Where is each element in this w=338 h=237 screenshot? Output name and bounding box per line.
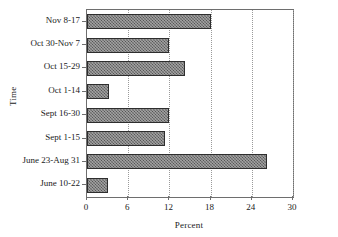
y-tick-mark [82,44,86,45]
x-tick-mark [210,196,211,200]
bar-row [87,80,293,103]
y-tick-label: Nov 8-17 [0,15,80,25]
x-tick-mark [127,196,128,200]
x-tick-mark [86,196,87,200]
y-tick-mark [82,114,86,115]
bar [87,131,165,146]
y-tick-mark [82,184,86,185]
y-tick-label: Sept 16-30 [0,108,80,118]
bar-row [87,150,293,173]
bar [87,14,211,29]
bar-row [87,33,293,56]
y-tick-mark [82,67,86,68]
bar-series [87,10,293,197]
x-tick-mark [251,196,252,200]
y-tick-mark [82,21,86,22]
bar [87,108,169,123]
x-tick-label: 0 [71,202,101,212]
bar [87,178,108,193]
plot-area [86,9,294,198]
bar [87,61,185,76]
x-tick-mark [168,196,169,200]
x-axis-title: Percent [86,220,292,230]
bar-row [87,127,293,150]
y-tick-label: Oct 15-29 [0,61,80,71]
x-tick-mark [292,196,293,200]
x-tick-label: 18 [195,202,225,212]
y-tick-mark [82,91,86,92]
bar [87,38,169,53]
y-tick-mark [82,138,86,139]
bar-row [87,10,293,33]
y-tick-label: June 23-Aug 31 [0,155,80,165]
x-tick-label: 6 [112,202,142,212]
x-tick-label: 12 [153,202,183,212]
bar [87,84,109,99]
y-tick-label: June 10-22 [0,178,80,188]
bar-row [87,57,293,80]
bar-row [87,174,293,197]
y-tick-mark [82,161,86,162]
y-tick-label: Oct 1-14 [0,85,80,95]
y-tick-label: Oct 30-Nov 7 [0,38,80,48]
x-tick-label: 24 [236,202,266,212]
bar [87,154,267,169]
y-tick-label: Sept 1-15 [0,132,80,142]
bar-row [87,104,293,127]
gridline [293,10,294,197]
bar-chart: Time 0612182430Nov 8-17Oct 30-Nov 7Oct 1… [0,0,338,237]
x-tick-label: 30 [277,202,307,212]
